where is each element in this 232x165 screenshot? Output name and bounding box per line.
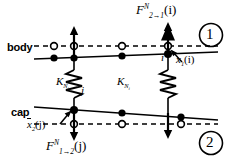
cap-deformed-line (34, 107, 218, 120)
displacement-top-symbol: x (176, 53, 181, 65)
body-open-node-3 (119, 43, 126, 50)
contact-spring-diagram: 1 2 body cap FN2→1(i) FN1→2(j) x1(i) x2(… (0, 0, 232, 165)
displacement-label-bottom: x2(j) (27, 119, 45, 130)
force-top-subscript: 2→1 (149, 11, 164, 20)
node-i-label: i (161, 52, 164, 63)
force-label-bottom: FN1→2(j) (46, 139, 86, 152)
force-top-symbol: F (136, 2, 144, 17)
cap-label: cap (11, 106, 29, 118)
spring-right-label: KNi (117, 76, 130, 89)
cap-open-node-2 (119, 121, 126, 128)
displacement-top-symbol-holder: x (176, 54, 181, 65)
displacement-top-argument: (i) (184, 53, 194, 65)
body-filled-node-1 (50, 54, 57, 61)
region-1-number: 1 (206, 27, 214, 42)
cap-filled-node-3 (177, 113, 184, 120)
displacement-label-top: x1(i) (176, 54, 194, 65)
spring-left-label: KNj (56, 76, 69, 89)
cap-filled-node-2 (118, 109, 125, 116)
force-bottom-superscript: N (54, 138, 59, 147)
node-j-label: j (81, 85, 84, 96)
displacement-bottom-symbol-holder: x (27, 119, 32, 130)
body-filled-node-3 (118, 52, 125, 59)
force-bottom-symbol: F (46, 138, 54, 153)
overbar (27, 118, 31, 119)
force-arrowhead-bottom-right (164, 130, 172, 139)
spring-left-sub-index: j (68, 86, 69, 91)
force-bottom-argument: (j) (74, 138, 86, 153)
force-arrowhead-top-at-i (164, 22, 172, 31)
spring-right-assembly (160, 56, 176, 113)
body-label: body (7, 41, 32, 53)
displacement-bottom-argument: (j) (35, 118, 45, 130)
body-open-node-1 (51, 43, 58, 50)
force-top-superscript: N (144, 2, 149, 11)
force-bottom-subscript: 1→2 (59, 147, 74, 156)
force-label-top: FN2→1(i) (136, 3, 176, 16)
displacement-bottom-symbol: x (27, 118, 32, 130)
spring-right-subscript: Ni (124, 82, 130, 89)
spring-right-sub-index: i (129, 86, 130, 91)
spring-right-coil (160, 70, 176, 98)
force-arrowhead-top-left (70, 26, 78, 35)
diagram-canvas (0, 0, 232, 165)
force-top-argument: (i) (164, 2, 176, 17)
cap-open-node-3 (178, 121, 185, 128)
region-2-number: 2 (206, 135, 214, 150)
spring-left-subscript: Nj (63, 82, 69, 89)
